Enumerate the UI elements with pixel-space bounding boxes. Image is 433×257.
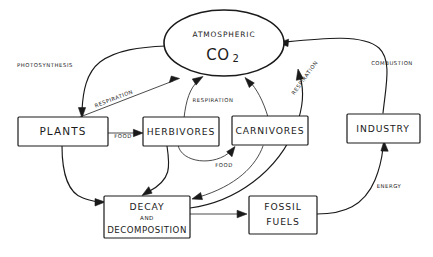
label-respiration-carnivores: RESPIRATION: [290, 59, 319, 96]
node-fossil-line1: FOSSIL: [264, 201, 301, 212]
node-herbivores: HERBIVORES: [143, 117, 219, 146]
edge-decay-fossil: [190, 210, 247, 218]
carbon-cycle-diagram: ATMOSPHERIC CO 2 PLANTS HERBIVORES CARNI…: [0, 0, 433, 257]
edge-respiration-carnivores: [245, 78, 268, 118]
node-industry: INDUSTRY: [347, 114, 420, 143]
label-food-plants-herbivores: FOOD: [114, 133, 132, 139]
node-carnivores: CARNIVORES: [232, 116, 308, 145]
atmosphere-line2: CO: [206, 46, 229, 64]
node-decay-line3: DECOMPOSITION: [107, 225, 187, 235]
node-decay: DECAY AND DECOMPOSITION: [104, 196, 190, 238]
edge-photosynthesis: [78, 46, 166, 118]
node-fossil-fuels: FOSSIL FUELS: [249, 196, 317, 234]
edge-respiration-plants: [80, 76, 180, 117]
node-industry-label: INDUSTRY: [356, 123, 409, 134]
node-plants: PLANTS: [18, 117, 108, 146]
label-food-herbivores-carnivores: FOOD: [215, 162, 233, 168]
label-combustion: COMBUSTION: [371, 60, 413, 66]
edge-combustion: [278, 38, 387, 113]
label-respiration-herbivores: RESPIRATION: [193, 97, 234, 103]
node-herbivores-label: HERBIVORES: [147, 126, 216, 137]
label-energy: ENERGY: [377, 183, 402, 189]
atmosphere-line1: ATMOSPHERIC: [193, 30, 256, 39]
edge-energy: [317, 141, 388, 214]
node-atmospheric-co2: ATMOSPHERIC CO 2: [164, 10, 284, 76]
edge-plants-decay: [62, 146, 105, 206]
node-plants-label: PLANTS: [39, 125, 86, 137]
node-decay-line1: DECAY: [130, 201, 165, 212]
label-photosynthesis: PHOTOSYNTHESIS: [17, 62, 73, 68]
node-carnivores-label: CARNIVORES: [235, 125, 304, 136]
edge-herbivores-decay: [142, 146, 169, 196]
edge-food-herbivores-carnivores: [178, 145, 235, 161]
node-decay-line2: AND: [140, 215, 154, 221]
atmosphere-subscript: 2: [233, 53, 240, 64]
node-fossil-line2: FUELS: [266, 216, 299, 227]
